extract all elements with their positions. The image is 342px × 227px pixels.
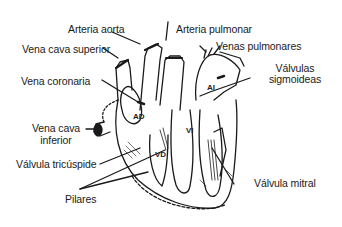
label-valvula-tricuspide: Válvula tricúspide	[16, 159, 97, 170]
chamber-label-vi: VI	[186, 126, 194, 135]
label-arteria-aorta: Arteria aorta	[68, 24, 124, 35]
chamber-label-vd: VD	[155, 150, 166, 159]
heart-diagram: AD AI VD VI Arteria aorta Arteria pulmon…	[0, 0, 342, 227]
chamber-label-ad: AD	[133, 112, 145, 121]
label-vena-cava-superior: Vena cava superior	[22, 44, 110, 55]
label-valvula-mitral: Válvula mitral	[254, 178, 316, 189]
chamber-label-ai: AI	[207, 83, 215, 92]
label-arteria-pulmonar: Arteria pulmonar	[176, 24, 252, 35]
heart-drawing	[0, 0, 342, 227]
label-venas-pulmonares: Venas pulmonares	[216, 41, 301, 52]
label-pilares: Pilares	[65, 194, 96, 205]
label-vena-cava-inferior-line2: inferior	[26, 135, 86, 146]
label-vena-cava-inferior-line1: Vena cava	[26, 123, 86, 134]
label-vena-coronaria: Vena coronaria	[21, 76, 90, 87]
label-valvulas-sigmoideas-line2: sigmoideas	[262, 74, 328, 85]
